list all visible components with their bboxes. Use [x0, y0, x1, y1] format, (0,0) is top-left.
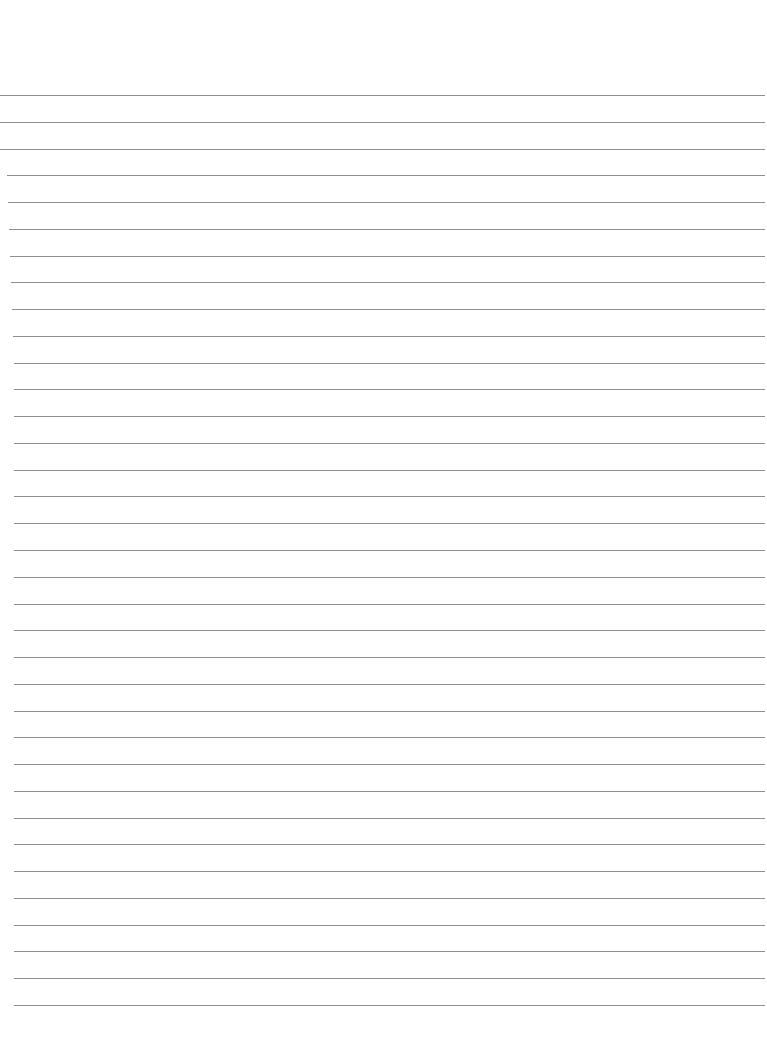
ruled-line [14, 577, 765, 578]
ruled-line [14, 925, 765, 926]
ruled-line [14, 951, 765, 952]
ruled-line [14, 737, 765, 738]
ruled-line [10, 256, 765, 257]
ruled-line [14, 363, 765, 364]
ruled-line [9, 229, 765, 230]
ruled-line [14, 657, 765, 658]
ruled-line [14, 764, 765, 765]
ruled-line [14, 496, 765, 497]
ruled-line [8, 202, 765, 203]
ruled-line [14, 470, 765, 471]
ruled-line [14, 844, 765, 845]
ruled-line [14, 604, 765, 605]
ruled-line [14, 978, 765, 979]
ruled-line [14, 791, 765, 792]
ruled-line [13, 336, 765, 337]
ruled-line [0, 122, 765, 123]
ruled-line [14, 523, 765, 524]
ruled-line [14, 898, 765, 899]
ruled-line [11, 282, 765, 283]
ruled-line [14, 443, 765, 444]
ruled-line [14, 550, 765, 551]
ruled-line [14, 416, 765, 417]
ruled-line [14, 1005, 765, 1006]
ruled-line [14, 684, 765, 685]
ruled-line [14, 389, 765, 390]
ruled-line [12, 309, 765, 310]
ruled-paper-page [0, 0, 767, 1058]
ruled-line [14, 818, 765, 819]
ruled-line [7, 175, 765, 176]
ruled-line [14, 630, 765, 631]
ruled-line [14, 871, 765, 872]
ruled-line [0, 95, 765, 96]
ruled-line [0, 149, 765, 150]
ruled-line [14, 711, 765, 712]
